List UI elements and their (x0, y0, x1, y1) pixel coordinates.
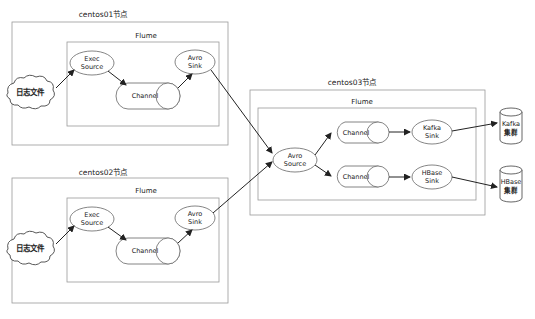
hbase-sink: HBase Sink (412, 165, 452, 189)
channel-bottom: Channel (337, 166, 389, 187)
node-title: centos03节点 (328, 78, 377, 87)
svg-text:Avro: Avro (188, 210, 202, 218)
svg-text:日志文件: 日志文件 (16, 87, 45, 97)
kafka-sink: Kafka Sink (412, 120, 452, 144)
svg-text:Kafka: Kafka (502, 120, 520, 128)
svg-text:Sink: Sink (188, 218, 202, 226)
node-centos01: centos01节点 Flume 日志文件 Exec Source Channe… (7, 10, 228, 145)
node-title: centos02节点 (79, 168, 128, 177)
svg-text:Sink: Sink (188, 62, 202, 70)
svg-text:Sink: Sink (425, 177, 439, 185)
svg-text:日志文件: 日志文件 (16, 243, 45, 253)
channel: Channel (116, 83, 180, 109)
node-centos03: centos03节点 Flume Avro Source Channel Cha… (250, 78, 485, 215)
svg-text:Avro: Avro (288, 152, 302, 160)
node-centos02: centos02节点 Flume 日志文件 Exec Source Channe… (7, 168, 228, 303)
exec-source: Exec Source (70, 51, 114, 75)
channel: Channel (116, 238, 180, 264)
avro-sink: Avro Sink (175, 206, 215, 230)
svg-text:Kafka: Kafka (423, 124, 441, 132)
svg-text:Channel: Channel (343, 129, 370, 137)
svg-text:Channel: Channel (343, 173, 370, 181)
svg-text:Channel: Channel (132, 247, 159, 255)
svg-text:集群: 集群 (503, 128, 518, 137)
avro-source: Avro Source (273, 148, 317, 172)
svg-text:Source: Source (81, 63, 103, 71)
flume-label: Flume (135, 187, 157, 195)
avro-sink: Avro Sink (175, 50, 215, 74)
svg-text:Sink: Sink (425, 132, 439, 140)
node-title: centos01节点 (79, 10, 128, 19)
kafka-cluster: Kafka 集群 (500, 108, 522, 144)
flume-architecture-diagram: centos01节点 Flume 日志文件 Exec Source Channe… (0, 0, 535, 319)
svg-text:Channel: Channel (132, 92, 159, 100)
svg-text:Source: Source (284, 160, 306, 168)
svg-text:Exec: Exec (84, 211, 100, 219)
hbase-cluster: HBase 集群 (500, 166, 522, 202)
flume-label: Flume (135, 32, 157, 40)
svg-text:Avro: Avro (188, 54, 202, 62)
flume-label: Flume (351, 98, 373, 106)
svg-text:HBase: HBase (501, 178, 522, 186)
svg-text:Source: Source (81, 219, 103, 227)
svg-text:Exec: Exec (84, 55, 100, 63)
channel-top: Channel (337, 122, 389, 143)
svg-text:HBase: HBase (422, 169, 443, 177)
exec-source: Exec Source (70, 207, 114, 231)
svg-text:集群: 集群 (503, 186, 518, 195)
